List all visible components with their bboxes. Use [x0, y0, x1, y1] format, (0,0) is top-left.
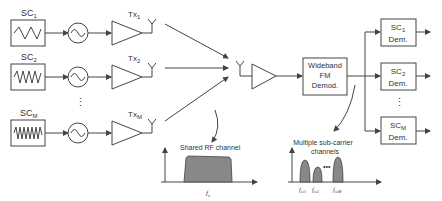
tx-label-2: Tx2 [128, 54, 141, 64]
tx-chain-2: SC2 Tx2 [11, 52, 156, 90]
amplifier-m [112, 121, 142, 145]
amplifier-2 [112, 65, 142, 89]
wideband-fm-demod: Wideband FM Demod. [303, 58, 347, 95]
tx-label-m: TxM [128, 110, 142, 120]
svg-text:fsc1: fsc1 [299, 187, 306, 194]
system-diagram: SC1 Tx1 SC2 Tx2 ⋮ SCM TxM [0, 0, 442, 201]
svg-text:FM: FM [320, 71, 331, 80]
sc-demod-2: SC2 Dem. [381, 63, 430, 90]
svg-text:Dem.: Dem. [388, 35, 407, 44]
tx-chain-m: SCM TxM [11, 108, 156, 146]
spectrum-rf: Shared RF channel fc [161, 144, 257, 198]
subcarrier-source-m [11, 120, 45, 146]
svg-text:•••: ••• [323, 163, 331, 170]
ellipsis-rx: ⋮ [394, 96, 405, 108]
rf-link-m [165, 77, 228, 121]
rx-antenna-icon [236, 61, 244, 66]
ellipsis-tx: ⋮ [75, 96, 86, 108]
svg-text:Demod.: Demod. [312, 81, 338, 90]
sc-demod-1: SC1 Dem. [381, 19, 430, 46]
source-label-1: SC1 [21, 8, 38, 19]
svg-text:Multiple sub-carrier: Multiple sub-carrier [293, 139, 353, 147]
svg-text:channels: channels [311, 148, 340, 155]
callout-rf [212, 110, 218, 142]
rx-amplifier [252, 64, 276, 89]
antenna-icon [148, 119, 156, 124]
svg-text:fc: fc [206, 189, 211, 198]
svg-text:fsc2: fsc2 [312, 187, 319, 194]
svg-text:Shared RF channel: Shared RF channel [180, 144, 241, 151]
svg-text:Dem.: Dem. [388, 79, 407, 88]
rf-link-1 [165, 24, 228, 58]
tx-chain-1: SC1 Tx1 [11, 8, 156, 46]
antenna-icon [148, 19, 156, 24]
amplifier-1 [112, 21, 142, 45]
svg-text:Dem.: Dem. [388, 133, 407, 142]
antenna-icon [148, 63, 156, 68]
spectrum-subcarrier: Multiple sub-carrier channels ••• fsc1 f… [288, 139, 381, 194]
source-label-2: SC2 [21, 52, 38, 63]
svg-text:Wideband: Wideband [308, 61, 342, 70]
source-label-m: SCM [20, 108, 38, 119]
tx-label-1: Tx1 [128, 10, 141, 20]
svg-text:fscM: fscM [333, 187, 342, 194]
sc-demod-m: SCM Dem. [381, 117, 430, 144]
